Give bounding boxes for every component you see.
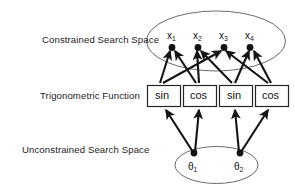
- node-x2-label: x2: [193, 31, 202, 41]
- node-x2[interactable]: [195, 44, 202, 51]
- node-x2-subscript: 2: [198, 35, 202, 42]
- node-theta2-subscript: 2: [240, 166, 244, 173]
- node-theta1-subscript: 1: [194, 166, 198, 173]
- node-x3-subscript: 3: [224, 35, 228, 42]
- edge-theta2-to-box4: [241, 110, 268, 152]
- node-theta2-label: θ2: [234, 162, 243, 172]
- node-theta2-symbol: θ: [234, 161, 240, 172]
- diagram-root: Constrained Search Space Trigonometric F…: [0, 0, 295, 186]
- node-x4-subscript: 4: [250, 35, 254, 42]
- node-x1[interactable]: [169, 44, 176, 51]
- node-x3-label: x3: [219, 31, 228, 41]
- trig-box-4-text: cos: [262, 90, 279, 101]
- edge-theta1-to-box2: [195, 110, 199, 152]
- constrained-search-space-label: Constrained Search Space: [42, 35, 159, 45]
- node-x1-subscript: 1: [172, 35, 176, 42]
- trig-box-3-text: sin: [227, 90, 241, 101]
- edge-theta2-to-box3: [235, 110, 239, 152]
- node-x4-label: x4: [245, 31, 254, 41]
- node-x4[interactable]: [247, 44, 254, 51]
- trig-box-1-text: sin: [155, 90, 169, 101]
- unconstrained-search-space-label: Unconstrained Search Space: [22, 145, 149, 155]
- edge-box2-to-x2: [197, 51, 199, 83]
- node-theta1[interactable]: [191, 150, 198, 157]
- node-x3[interactable]: [221, 44, 228, 51]
- edge-theta1-to-box1: [166, 110, 193, 152]
- node-x1-label: x1: [167, 31, 176, 41]
- trig-box-2-text: cos: [190, 90, 207, 101]
- node-theta2[interactable]: [237, 150, 244, 157]
- trigonometric-function-label: Trigonometric Function: [40, 91, 140, 101]
- edge-box1-to-x1: [160, 51, 170, 83]
- edge-box3-to-x2: [201, 51, 232, 83]
- node-theta1-label: θ1: [188, 162, 197, 172]
- node-theta1-symbol: θ: [188, 161, 194, 172]
